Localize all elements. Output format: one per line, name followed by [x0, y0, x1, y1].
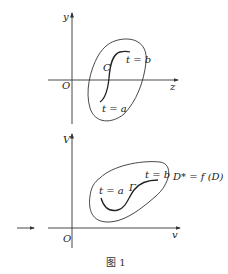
bottom-end-label: t = b [145, 169, 170, 180]
bottom-start-label: t = a [99, 185, 124, 196]
bottom-x-axis-label: v [172, 229, 178, 240]
top-origin-label: O [62, 80, 70, 91]
figure-caption: 图 1 [106, 257, 126, 268]
curve-c-label: C [103, 62, 111, 73]
top-y-axis-label: y [62, 11, 69, 22]
top-figure: y z O C t = b t = a [48, 11, 178, 124]
bottom-origin-label: O [63, 233, 71, 244]
curve-gamma-label: Γ [128, 182, 137, 193]
top-x-axis-label: z [169, 81, 176, 92]
region-d-star-label: D* = f (D) [172, 171, 224, 182]
bottom-figure: V v O t = a Γ t = b D* = f (D) [17, 134, 224, 248]
top-end-label: t = b [126, 54, 151, 65]
top-start-label: t = a [102, 103, 127, 114]
figure-canvas: y z O C t = b t = a V v O t = a Γ t = b … [0, 0, 228, 274]
bottom-y-axis-label: V [63, 134, 72, 145]
